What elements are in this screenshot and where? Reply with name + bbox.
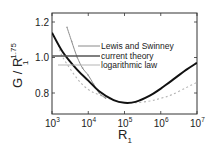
y-tick-label: 0.8 [35, 88, 49, 99]
lewis-and-swinney-curve [67, 27, 106, 98]
x-axis-title: R1 [118, 127, 132, 145]
ticks-layer: 1031041051061070.81.01.2 [35, 13, 205, 129]
legend-item-label: logarithmic law [101, 60, 158, 70]
data-point [87, 74, 89, 76]
x-tick-label: 107 [190, 116, 205, 129]
data-point [105, 98, 107, 100]
y-tick-label: 1.0 [35, 52, 49, 63]
legend-item-label: Lewis and Swinney [101, 41, 175, 51]
chart: 1031041051061070.81.01.2 Lewis and Swinn… [0, 0, 213, 150]
data-point [77, 57, 79, 59]
data-point [82, 67, 84, 69]
x-tick-label: 106 [154, 116, 169, 129]
x-tick-label: 103 [45, 116, 60, 129]
x-tick-label: 104 [81, 116, 96, 129]
data-point [66, 27, 68, 29]
legend: Lewis and Swinneycurrent theorylogarithm… [52, 41, 175, 70]
y-tick-label: 1.2 [35, 17, 49, 28]
data-point [71, 41, 73, 43]
y-axis-title: G / R1.751 [9, 43, 30, 88]
